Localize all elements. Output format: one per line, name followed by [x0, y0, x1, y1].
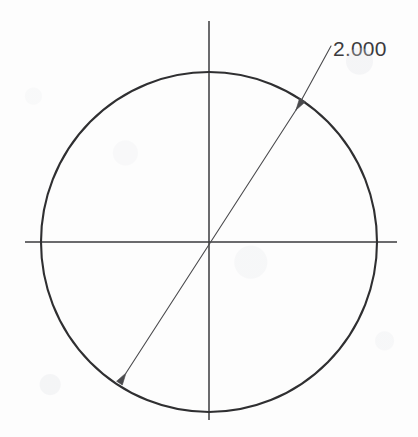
engineering-drawing-canvas: 2.000 [0, 0, 418, 437]
drawing-viewport: 2.000 [0, 0, 418, 437]
dimension-value-label[interactable]: 2.000 [333, 37, 387, 60]
arrowhead-lower-left-icon [117, 371, 129, 385]
arrowhead-upper-right-icon [293, 98, 305, 112]
